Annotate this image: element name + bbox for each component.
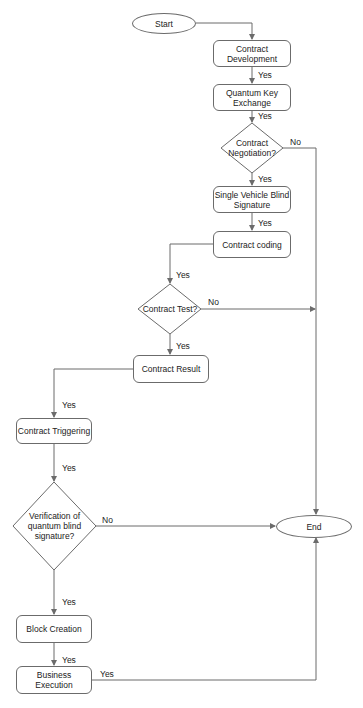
contract-test-label: Contract Test?	[143, 304, 198, 314]
edge-label-neg-no: No	[290, 137, 301, 147]
edge-label-verif-yes: Yes	[62, 597, 76, 607]
edge-label-verif-no: No	[102, 515, 113, 525]
single-vehicle-blind-signature-node: Single Vehicle Blind Signature	[213, 186, 291, 213]
contract-negotiation-label: Contract Negotiation?	[226, 138, 278, 158]
edge-label-exec-to-end: Yes	[100, 669, 114, 679]
edge-label-qke-to-neg: Yes	[258, 111, 272, 121]
verification-label-box: Verification of quantum blind signature?	[16, 510, 93, 542]
contract-triggering-node: Contract Triggering	[16, 418, 92, 444]
contract-development-node: Contract Development	[213, 40, 291, 67]
contract-triggering-label: Contract Triggering	[18, 426, 90, 436]
end-node: End	[276, 515, 352, 538]
contract-coding-node: Contract coding	[213, 231, 291, 258]
edge-execution-to-end	[91, 538, 316, 680]
verification-label: Verification of quantum blind signature?	[24, 511, 86, 541]
edge-label-neg-yes: Yes	[258, 174, 272, 184]
business-execution-label: Business Execution	[17, 670, 91, 690]
contract-negotiation-label-box: Contract Negotiation?	[222, 136, 282, 160]
edge-label-block-to-exec: Yes	[62, 655, 76, 665]
edge-label-svbs-to-coding: Yes	[258, 218, 272, 228]
quantum-key-exchange-label: Quantum Key Exchange	[220, 88, 284, 108]
contract-result-node: Contract Result	[133, 355, 209, 383]
edge-label-trig-to-verif: Yes	[62, 463, 76, 473]
contract-development-label: Contract Development	[222, 44, 282, 64]
edge-label-coding-to-test: Yes	[176, 270, 190, 280]
start-label: Start	[155, 19, 173, 29]
edge-label-test-yes: Yes	[176, 341, 190, 351]
block-creation-label: Block Creation	[26, 624, 81, 634]
quantum-key-exchange-node: Quantum Key Exchange	[213, 84, 291, 111]
end-label: End	[306, 522, 321, 532]
contract-result-label: Contract Result	[142, 364, 201, 374]
start-node: Start	[132, 13, 196, 34]
flowchart-connectors	[0, 0, 363, 708]
edge-label-test-no: No	[208, 297, 219, 307]
block-creation-node: Block Creation	[16, 615, 92, 643]
edge-label-result-to-trig: Yes	[62, 400, 76, 410]
business-execution-node: Business Execution	[16, 666, 92, 694]
contract-coding-label: Contract coding	[222, 240, 282, 250]
edge-start-to-development	[196, 23, 252, 39]
edge-label-dev-to-qke: Yes	[258, 70, 272, 80]
contract-test-label-box: Contract Test?	[138, 303, 202, 315]
single-vehicle-blind-signature-label: Single Vehicle Blind Signature	[214, 190, 290, 210]
